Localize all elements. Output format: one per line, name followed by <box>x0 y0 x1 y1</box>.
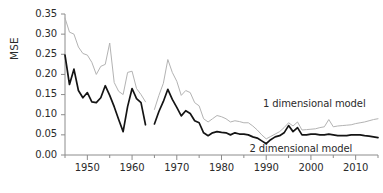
y-tick-label: 0.10 <box>23 108 57 119</box>
y-tick-label: 0.30 <box>23 28 57 39</box>
y-tick-label: 0.35 <box>23 8 57 19</box>
data-series <box>65 18 378 144</box>
x-tick-label: 1950 <box>67 162 107 173</box>
series-annotation: 2 dimensional model <box>250 143 353 154</box>
y-tick-label: 0.00 <box>23 149 57 160</box>
mse-line-chart: MSE 0.000.050.100.150.200.250.300.35 195… <box>0 0 383 193</box>
y-tick-label: 0.20 <box>23 68 57 79</box>
y-tick-label: 0.05 <box>23 128 57 139</box>
y-tick-label: 0.15 <box>23 88 57 99</box>
x-tick-label: 2010 <box>336 162 376 173</box>
y-tick-label: 0.25 <box>23 48 57 59</box>
x-tick-label: 1960 <box>112 162 152 173</box>
x-tick-label: 1990 <box>246 162 286 173</box>
x-tick-label: 1970 <box>157 162 197 173</box>
x-tick-label: 1980 <box>202 162 242 173</box>
series-annotation: 1 dimensional model <box>263 98 366 109</box>
x-tick-label: 2000 <box>291 162 331 173</box>
axis-ticks <box>61 14 378 160</box>
